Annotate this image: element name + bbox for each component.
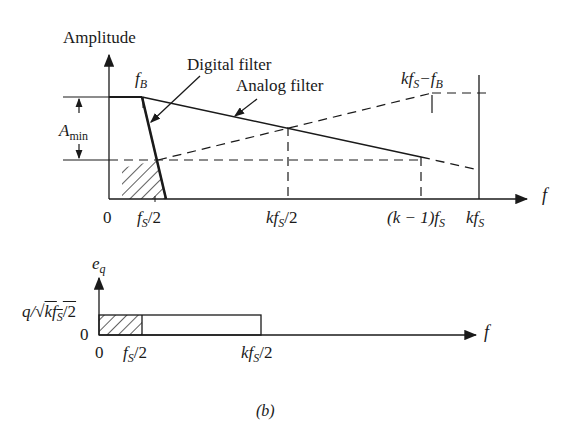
top-km1fs-tick: (k − 1)fS xyxy=(387,209,445,226)
amin-label: Amin xyxy=(59,122,88,139)
fb-label: fB xyxy=(135,70,147,87)
kfs-minus-fb-label: kfS−fB xyxy=(401,70,443,87)
bottom-zero-x-tick: 0 xyxy=(95,344,104,361)
analog-filter-pointer xyxy=(235,99,257,116)
bottom-zero-y-tick: 0 xyxy=(80,326,89,343)
figure-caption: (b) xyxy=(256,403,275,419)
hatched-band xyxy=(99,315,142,335)
bottom-f-axis-label: f xyxy=(484,323,489,341)
analog-filter-label: Analog filter xyxy=(236,77,323,94)
top-kfs-tick: kfS xyxy=(466,209,484,226)
digital-filter-pointer xyxy=(151,76,200,122)
top-f-axis-label: f xyxy=(542,186,547,204)
digital-filter-label: Digital filter xyxy=(187,56,272,73)
q-level-tick: q/√kfS/2 xyxy=(22,303,76,320)
amplitude-axis-label: Amplitude xyxy=(63,29,136,46)
top-zero-tick: 0 xyxy=(103,209,112,226)
top-fs2-tick: fS/2 xyxy=(137,209,161,226)
bottom-plot xyxy=(99,278,476,335)
eq-axis-label: eq xyxy=(92,255,106,272)
bottom-kfs2-tick: kfS/2 xyxy=(241,344,273,361)
bottom-fs2-tick: fS/2 xyxy=(123,344,147,361)
top-kfs2-tick: kfS/2 xyxy=(266,209,298,226)
